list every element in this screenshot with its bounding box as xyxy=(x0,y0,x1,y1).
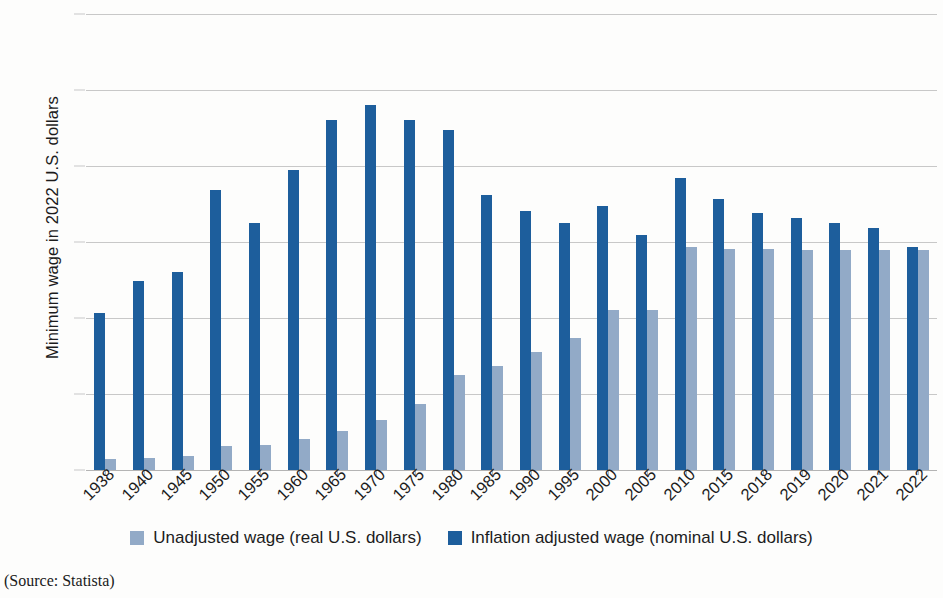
x-tick-label: 2019 xyxy=(776,465,815,504)
plot-area: 1512.5107.552.50 xyxy=(86,14,937,470)
x-tick-label: 1980 xyxy=(427,465,466,504)
bar-unadjusted[interactable] xyxy=(879,250,890,470)
bar-inflation-adjusted[interactable] xyxy=(326,120,337,470)
x-tick-group: 2020 xyxy=(821,470,860,528)
x-tick-label: 2010 xyxy=(659,465,698,504)
x-tick-group: 2018 xyxy=(744,470,783,528)
bar-group xyxy=(434,14,473,470)
x-tick-label: 2022 xyxy=(892,465,931,504)
bar-group xyxy=(705,14,744,470)
bar-inflation-adjusted[interactable] xyxy=(404,120,415,470)
bar-group xyxy=(86,14,125,470)
x-tick-label: 1955 xyxy=(234,465,273,504)
bar-inflation-adjusted[interactable] xyxy=(675,178,686,470)
bar-unadjusted[interactable] xyxy=(802,250,813,470)
bar-groups xyxy=(86,14,937,470)
x-tick-group: 1945 xyxy=(163,470,202,528)
x-tick-group: 2010 xyxy=(666,470,705,528)
bar-unadjusted[interactable] xyxy=(454,375,465,470)
bar-unadjusted[interactable] xyxy=(492,366,503,470)
bar-group xyxy=(898,14,937,470)
bar-group xyxy=(666,14,705,470)
x-tick-group: 1965 xyxy=(318,470,357,528)
bar-inflation-adjusted[interactable] xyxy=(636,235,647,470)
x-tick-label: 1940 xyxy=(118,465,157,504)
x-tick-label: 1950 xyxy=(195,465,234,504)
bar-unadjusted[interactable] xyxy=(647,310,658,470)
bar-group xyxy=(821,14,860,470)
bar-inflation-adjusted[interactable] xyxy=(133,281,144,470)
legend-item[interactable]: Inflation adjusted wage (nominal U.S. do… xyxy=(448,528,813,548)
bar-group xyxy=(744,14,783,470)
x-tick-label: 1995 xyxy=(543,465,582,504)
bar-group xyxy=(628,14,667,470)
x-tick-group: 1985 xyxy=(473,470,512,528)
x-tick-label: 2015 xyxy=(698,465,737,504)
bar-unadjusted[interactable] xyxy=(840,250,851,470)
chart-legend: Unadjusted wage (real U.S. dollars)Infla… xyxy=(0,528,943,548)
bar-inflation-adjusted[interactable] xyxy=(94,313,105,470)
y-tick-mark xyxy=(74,318,85,319)
bar-unadjusted[interactable] xyxy=(570,338,581,470)
x-tick-label: 2005 xyxy=(621,465,660,504)
bar-inflation-adjusted[interactable] xyxy=(907,247,918,470)
bar-inflation-adjusted[interactable] xyxy=(288,170,299,470)
bar-inflation-adjusted[interactable] xyxy=(829,223,840,470)
y-tick-mark xyxy=(74,90,85,91)
bar-inflation-adjusted[interactable] xyxy=(172,272,183,470)
bar-inflation-adjusted[interactable] xyxy=(443,130,454,470)
bar-group xyxy=(125,14,164,470)
bar-inflation-adjusted[interactable] xyxy=(752,213,763,470)
bar-group xyxy=(589,14,628,470)
x-tick-group: 2022 xyxy=(898,470,937,528)
x-tick-group: 2015 xyxy=(705,470,744,528)
bar-group xyxy=(512,14,551,470)
x-axis-labels: 1938194019451950195519601965197019751980… xyxy=(86,470,937,528)
x-tick-group: 1980 xyxy=(434,470,473,528)
bar-group xyxy=(782,14,821,470)
y-tick-mark xyxy=(74,470,85,471)
bar-unadjusted[interactable] xyxy=(724,249,735,470)
x-tick-label: 2021 xyxy=(853,465,892,504)
bar-unadjusted[interactable] xyxy=(299,439,310,470)
bar-unadjusted[interactable] xyxy=(376,420,387,470)
bar-group xyxy=(396,14,435,470)
bar-inflation-adjusted[interactable] xyxy=(210,190,221,470)
bar-group xyxy=(357,14,396,470)
bar-unadjusted[interactable] xyxy=(531,352,542,470)
bar-inflation-adjusted[interactable] xyxy=(791,218,802,470)
legend-label: Inflation adjusted wage (nominal U.S. do… xyxy=(471,528,813,548)
x-tick-group: 1938 xyxy=(86,470,125,528)
x-tick-label: 1970 xyxy=(350,465,389,504)
bar-inflation-adjusted[interactable] xyxy=(868,228,879,470)
y-tick-mark xyxy=(74,242,85,243)
x-tick-group: 1975 xyxy=(396,470,435,528)
bar-inflation-adjusted[interactable] xyxy=(249,223,260,470)
dark-blue-swatch xyxy=(448,531,462,545)
x-tick-label: 1975 xyxy=(389,465,428,504)
bar-unadjusted[interactable] xyxy=(763,249,774,470)
x-tick-label: 1938 xyxy=(79,465,118,504)
bar-inflation-adjusted[interactable] xyxy=(365,105,376,470)
bar-group xyxy=(860,14,899,470)
x-tick-group: 2019 xyxy=(782,470,821,528)
x-tick-label: 1990 xyxy=(505,465,544,504)
bar-inflation-adjusted[interactable] xyxy=(481,195,492,470)
bar-inflation-adjusted[interactable] xyxy=(520,211,531,470)
bar-unadjusted[interactable] xyxy=(918,250,929,470)
bar-inflation-adjusted[interactable] xyxy=(597,206,608,470)
legend-item[interactable]: Unadjusted wage (real U.S. dollars) xyxy=(130,528,421,548)
x-tick-group: 2021 xyxy=(860,470,899,528)
bar-group xyxy=(473,14,512,470)
x-tick-group: 1990 xyxy=(512,470,551,528)
bar-unadjusted[interactable] xyxy=(337,431,348,470)
bar-unadjusted[interactable] xyxy=(686,247,697,470)
bar-group xyxy=(318,14,357,470)
bar-unadjusted[interactable] xyxy=(608,310,619,470)
x-tick-label: 2020 xyxy=(814,465,853,504)
bar-unadjusted[interactable] xyxy=(415,404,426,470)
bar-group xyxy=(241,14,280,470)
bar-inflation-adjusted[interactable] xyxy=(559,223,570,470)
bar-inflation-adjusted[interactable] xyxy=(713,199,724,470)
x-tick-group: 1960 xyxy=(279,470,318,528)
